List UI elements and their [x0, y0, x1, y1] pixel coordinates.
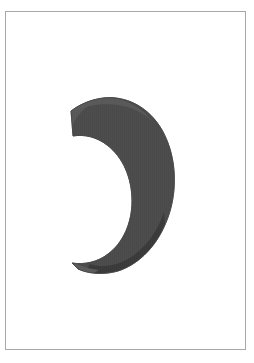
crescent-main-facet	[71, 98, 174, 274]
figure-canvas: Crescent Solid Figure crescent-solid Dar…	[6, 12, 247, 351]
page-border: Crescent Solid Figure crescent-solid Dar…	[5, 11, 246, 350]
crescent-body-group	[71, 98, 174, 274]
figure-page: Crescent Solid Figure crescent-solid Dar…	[0, 0, 254, 363]
crescent-solid-graphic	[6, 12, 247, 351]
